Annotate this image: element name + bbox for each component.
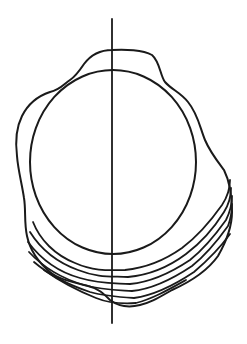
cross-section-diagram <box>0 0 247 344</box>
diagram-canvas <box>0 0 247 344</box>
growth-line-5 <box>34 234 230 298</box>
growth-line-1 <box>33 180 230 270</box>
inner-circle <box>30 70 196 254</box>
growth-lines <box>28 180 232 303</box>
